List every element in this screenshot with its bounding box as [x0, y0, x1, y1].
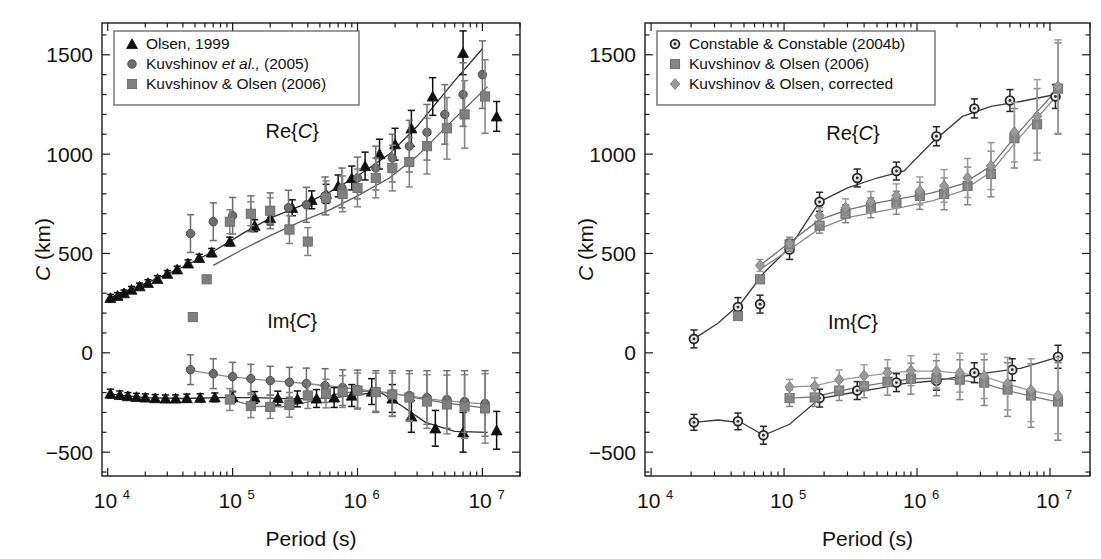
- data-marker-triangle: [162, 269, 173, 279]
- y-tick-label: 1000: [589, 143, 636, 166]
- data-marker-dot: [856, 177, 859, 180]
- data-marker-square: [405, 157, 414, 166]
- right-plot-panel: −500050010001500104105106107Period (s)C …: [545, 0, 1101, 559]
- data-marker-square: [188, 312, 197, 321]
- data-marker-square: [321, 389, 330, 398]
- x-tick-label: 107: [1036, 487, 1072, 512]
- data-marker-triangle: [427, 91, 438, 101]
- data-marker-square: [480, 404, 489, 413]
- data-marker-dot: [1011, 368, 1014, 371]
- data-marker-dot: [895, 381, 898, 384]
- y-axis-label: C (km): [574, 218, 597, 281]
- data-marker-square: [246, 209, 255, 218]
- data-marker-dot: [693, 421, 696, 424]
- data-marker-square: [202, 275, 211, 284]
- y-tick-label: 0: [624, 341, 636, 364]
- data-marker-circle: [302, 379, 310, 387]
- data-marker-diamond: [810, 381, 819, 392]
- svg-text:10: 10: [94, 489, 117, 512]
- data-marker-circle: [302, 201, 310, 209]
- data-marker-triangle: [491, 111, 502, 121]
- data-marker-square: [266, 206, 275, 215]
- data-marker-diamond: [785, 381, 794, 392]
- data-marker-circle: [266, 376, 274, 384]
- data-marker-square: [442, 124, 451, 133]
- data-marker-square: [285, 400, 294, 409]
- data-marker-dot: [737, 420, 740, 423]
- data-marker-triangle: [491, 425, 502, 435]
- legend-item-label: Olsen, 1999: [146, 35, 230, 52]
- data-marker-square: [266, 402, 275, 411]
- y-tick-label: −500: [589, 441, 636, 464]
- model-curve: [694, 357, 1058, 435]
- svg-text:10: 10: [770, 489, 793, 512]
- svg-text:10: 10: [219, 489, 242, 512]
- legend-item[interactable]: Kuvshinov & Olsen (2006): [670, 55, 869, 72]
- data-marker-dot: [973, 371, 976, 374]
- data-marker-square: [670, 59, 679, 68]
- data-marker-square: [225, 395, 234, 404]
- figure-root: −500050010001500104105106107Period (s)C …: [0, 0, 1101, 559]
- data-marker-square: [338, 387, 347, 396]
- data-marker-diamond: [859, 370, 868, 381]
- data-marker-circle: [441, 110, 449, 118]
- svg-text:10: 10: [637, 489, 660, 512]
- data-marker-triangle: [224, 236, 235, 246]
- data-marker-square: [285, 225, 294, 234]
- data-marker-circle: [209, 217, 217, 225]
- data-marker-triangle: [172, 264, 183, 274]
- data-marker-triangle: [360, 161, 371, 171]
- x-tick-label: 106: [903, 487, 939, 512]
- x-tick-label: 106: [344, 487, 380, 512]
- x-tick-label: 104: [94, 487, 130, 512]
- data-marker-diamond: [755, 260, 764, 271]
- data-marker-square: [422, 397, 431, 406]
- legend-item[interactable]: Kuvshinov et al., (2005): [128, 55, 309, 72]
- data-marker-dot: [1009, 99, 1012, 102]
- svg-text:4: 4: [123, 487, 130, 502]
- data-series: [785, 360, 1063, 440]
- legend-item[interactable]: Kuvshinov & Olsen (2006): [127, 75, 326, 92]
- data-marker-circle: [284, 204, 292, 212]
- x-tick-label: 105: [219, 487, 255, 512]
- svg-text:6: 6: [373, 487, 380, 502]
- data-marker-circle: [459, 90, 467, 98]
- data-marker-dot: [674, 43, 677, 46]
- data-series: [225, 373, 489, 443]
- svg-text:7: 7: [497, 487, 504, 502]
- legend-item[interactable]: Constable & Constable (2004b): [671, 35, 906, 52]
- y-tick-label: 1500: [589, 43, 636, 66]
- plot-annotation: Im{C}: [828, 311, 878, 333]
- svg-text:7: 7: [1065, 487, 1072, 502]
- svg-text:C (km): C (km): [31, 218, 54, 281]
- data-marker-dot: [818, 200, 821, 203]
- svg-text:10: 10: [1036, 489, 1059, 512]
- data-marker-square: [405, 393, 414, 402]
- data-marker-triangle: [458, 48, 469, 58]
- data-marker-circle: [209, 369, 217, 377]
- data-marker-circle: [128, 60, 136, 68]
- x-tick-label: 105: [770, 487, 806, 512]
- data-marker-square: [127, 79, 136, 88]
- y-tick-label: 1000: [46, 143, 93, 166]
- svg-text:10: 10: [903, 489, 926, 512]
- data-marker-square: [338, 189, 347, 198]
- data-marker-dot: [762, 434, 765, 437]
- model-curve: [760, 95, 1058, 270]
- data-marker-square: [303, 391, 312, 400]
- x-tick-label: 104: [637, 487, 673, 512]
- data-marker-square: [460, 402, 469, 411]
- left-plot-panel: −500050010001500104105106107Period (s)C …: [0, 0, 550, 559]
- legend-item-label: Kuvshinov & Olsen (2006): [146, 75, 326, 92]
- data-marker-dot: [895, 170, 898, 173]
- data-marker-square: [733, 311, 742, 320]
- data-marker-square: [460, 110, 469, 119]
- svg-text:6: 6: [932, 487, 939, 502]
- data-marker-square: [422, 142, 431, 151]
- legend-item[interactable]: Kuvshinov & Olsen, corrected: [670, 75, 893, 92]
- data-marker-square: [246, 401, 255, 410]
- data-marker-triangle: [209, 392, 220, 402]
- data-marker-square: [388, 163, 397, 172]
- x-axis-label: Period (s): [265, 527, 356, 550]
- legend-item-label: Kuvshinov & Olsen, corrected: [689, 75, 893, 92]
